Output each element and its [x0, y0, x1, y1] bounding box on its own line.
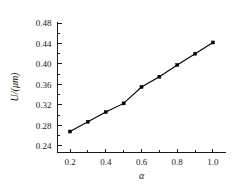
- data-point-marker: [194, 52, 197, 55]
- data-point-marker: [104, 111, 107, 114]
- y-tick-label: 0.44: [36, 39, 52, 49]
- y-tick-label: 0.28: [36, 121, 52, 131]
- y-tick-label: 0.48: [36, 18, 52, 28]
- data-point-marker: [211, 41, 214, 44]
- x-tick-label: 1.0: [207, 157, 219, 167]
- x-tick-label: 0.8: [172, 157, 184, 167]
- data-point-marker: [68, 130, 71, 133]
- y-tick-label: 0.40: [36, 59, 52, 69]
- data-point-marker: [122, 102, 125, 105]
- line-chart: 0.240.280.320.360.400.440.480.20.40.60.8…: [0, 0, 237, 189]
- y-tick-label: 0.32: [36, 100, 52, 110]
- y-tick-label: 0.36: [36, 80, 52, 90]
- y-tick-label: 0.24: [36, 141, 52, 151]
- chart-figure: 0.240.280.320.360.400.440.480.20.40.60.8…: [0, 0, 237, 189]
- x-tick-label: 0.4: [100, 157, 112, 167]
- data-point-marker: [158, 75, 161, 78]
- y-axis-title: U/(μm): [9, 72, 21, 102]
- x-tick-label: 0.6: [136, 157, 148, 167]
- data-point-marker: [140, 85, 143, 88]
- data-point-marker: [176, 63, 179, 66]
- x-axis-title: α: [139, 170, 145, 181]
- data-point-marker: [86, 120, 89, 123]
- x-tick-label: 0.2: [64, 157, 75, 167]
